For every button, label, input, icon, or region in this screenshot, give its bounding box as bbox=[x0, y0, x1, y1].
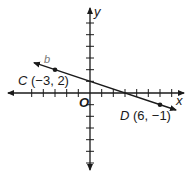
point-c bbox=[53, 67, 58, 72]
point-d-name: D bbox=[120, 108, 129, 123]
y-axis-label: y bbox=[94, 5, 101, 18]
x-axis-label: x bbox=[176, 94, 183, 107]
point-c-coords: (−3, 2) bbox=[31, 73, 69, 88]
origin-label: O bbox=[79, 96, 89, 109]
point-d-label: D (6, −1) bbox=[120, 109, 171, 122]
coordinate-plane bbox=[0, 0, 190, 176]
point-c-name: C bbox=[18, 73, 27, 88]
line-b-label: b bbox=[44, 54, 50, 65]
point-d-coords: (6, −1) bbox=[133, 108, 171, 123]
point-c-label: C (−3, 2) bbox=[18, 74, 69, 87]
point-d bbox=[158, 102, 163, 107]
